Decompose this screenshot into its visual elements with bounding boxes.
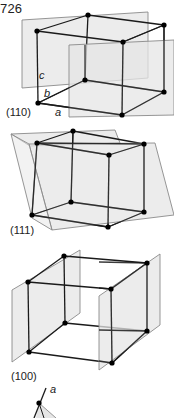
lattice-plane-front <box>29 143 174 230</box>
lattice-plane-right <box>99 254 160 370</box>
miller-index-111: (111) <box>10 224 34 236</box>
miller-index-100: (100) <box>11 370 37 382</box>
axis-label-c: c <box>39 69 45 81</box>
axis-fragment: a <box>34 383 56 418</box>
lattice-plane-left <box>12 250 80 362</box>
crystal-planes-figure: 726 <box>0 0 174 418</box>
miller-index-110: (110) <box>6 106 31 118</box>
axis-label-b: b <box>44 87 50 99</box>
figure-100: (100) <box>11 250 160 382</box>
axis-label-a-bottom: a <box>50 383 56 395</box>
figure-110: c b a (110) <box>6 12 174 118</box>
axis-label-a: a <box>55 106 61 118</box>
figure-111: (111) <box>10 128 174 236</box>
